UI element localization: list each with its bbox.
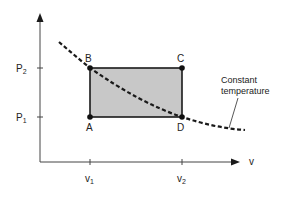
point-c-label: C	[177, 53, 184, 64]
curve-label-line2: temperature	[221, 86, 270, 96]
work-area-rectangle	[90, 68, 182, 117]
point-b-marker	[87, 65, 93, 71]
p2-label: P2	[16, 63, 27, 75]
x-axis-label: v	[249, 156, 254, 167]
p1-label: P1	[16, 112, 27, 124]
y-axis-arrow-icon	[37, 13, 44, 22]
point-c-marker	[179, 65, 185, 71]
x-axis-arrow-icon	[231, 159, 240, 166]
point-b-label: B	[85, 53, 92, 64]
v2-label: v2	[177, 173, 186, 185]
curve-label-line1: Constant	[221, 75, 258, 85]
label-leader-line	[229, 98, 238, 128]
point-d-label: D	[177, 122, 184, 133]
v1-label: v1	[85, 173, 94, 185]
point-d-marker	[179, 114, 185, 120]
point-a-label: A	[86, 122, 93, 133]
point-a-marker	[87, 114, 93, 120]
pv-diagram: B C A D P2 P1 v1 v2 v Constant temperatu…	[0, 0, 291, 199]
